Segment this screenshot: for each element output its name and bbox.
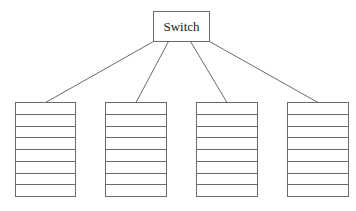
server-slot (197, 115, 258, 127)
server-slot (288, 174, 349, 185)
server-slot (106, 150, 167, 162)
server-slot (16, 174, 76, 185)
server-2 (106, 103, 167, 197)
server-racks (16, 103, 349, 197)
server-slot (16, 162, 76, 174)
server-slot (16, 103, 76, 115)
server-slot (106, 185, 167, 197)
network-diagram: Switch (0, 0, 356, 211)
server-slot (16, 185, 76, 197)
server-slot (16, 127, 76, 138)
server-slot (288, 127, 349, 138)
server-slot (197, 127, 258, 138)
link-line-1 (46, 42, 154, 103)
link-line-4 (210, 42, 319, 103)
server-slot (106, 174, 167, 185)
server-slot (106, 103, 167, 115)
server-1 (16, 103, 76, 197)
server-slot (16, 150, 76, 162)
switch-label: Switch (163, 19, 200, 34)
server-slot (288, 150, 349, 162)
server-slot (288, 138, 349, 150)
server-slot (197, 162, 258, 174)
connection-lines (46, 42, 319, 103)
server-slot (197, 174, 258, 185)
server-slot (16, 138, 76, 150)
switch-node: Switch (154, 12, 210, 42)
server-3 (197, 103, 258, 197)
server-slot (288, 103, 349, 115)
server-slot (288, 185, 349, 197)
server-slot (106, 162, 167, 174)
server-slot (106, 138, 167, 150)
server-slot (16, 115, 76, 127)
server-slot (106, 115, 167, 127)
server-slot (197, 138, 258, 150)
link-line-3 (191, 42, 228, 103)
server-slot (288, 115, 349, 127)
server-4 (288, 103, 349, 197)
link-line-2 (136, 42, 169, 103)
server-slot (197, 150, 258, 162)
server-slot (197, 103, 258, 115)
server-slot (106, 127, 167, 138)
server-slot (288, 162, 349, 174)
server-slot (197, 185, 258, 197)
